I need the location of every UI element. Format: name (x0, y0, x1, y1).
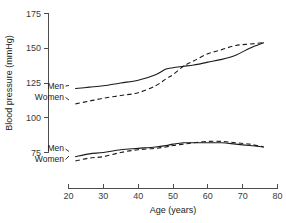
leader-diastolic-men (66, 149, 70, 152)
series-diastolic-men (75, 143, 263, 157)
y-tick-label-100: 100 (26, 113, 41, 123)
x-tick-label-70: 70 (238, 191, 248, 201)
x-axis: 20 30 40 50 60 70 80 Age (years) (63, 184, 282, 215)
x-tick-label-50: 50 (168, 191, 178, 201)
leader-systolic-women (66, 98, 70, 101)
y-tick-label-125: 125 (26, 78, 41, 88)
series-systolic-women (75, 43, 263, 104)
leader-diastolic-women (66, 156, 70, 160)
x-tick-label-80: 80 (272, 191, 282, 201)
x-tick-label-60: 60 (203, 191, 213, 201)
label-systolic-women: Women (35, 92, 64, 102)
series-group (75, 43, 263, 161)
x-tick-label-30: 30 (98, 191, 108, 201)
y-axis-title: Blood pressure (mmHg) (4, 35, 14, 131)
y-axis: 175 150 125 100 75 Blood pressure (mmHg) (4, 9, 49, 158)
blood-pressure-chart: 175 150 125 100 75 Blood pressure (mmHg)… (0, 0, 286, 223)
leader-systolic-men (66, 86, 70, 87)
label-diastolic-men: Men (47, 143, 64, 153)
label-systolic-men: Men (47, 81, 64, 91)
y-tick-label-150: 150 (26, 43, 41, 53)
x-tick-label-20: 20 (63, 191, 73, 201)
x-tick-label-40: 40 (133, 191, 143, 201)
label-diastolic-women: Women (35, 154, 64, 164)
y-tick-label-175: 175 (26, 9, 41, 19)
x-axis-title: Age (years) (150, 205, 197, 215)
chart-canvas: 175 150 125 100 75 Blood pressure (mmHg)… (0, 0, 286, 223)
series-systolic-men (75, 43, 263, 89)
